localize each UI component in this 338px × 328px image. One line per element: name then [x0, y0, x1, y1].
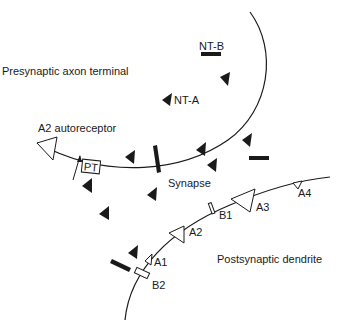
presynaptic-membrane — [37, 12, 266, 168]
b1-label: B1 — [219, 209, 232, 221]
b2-label: B2 — [152, 279, 165, 291]
nt-b-bar — [110, 259, 131, 272]
nt-a-triangle — [242, 133, 252, 147]
nt-a-triangle — [99, 206, 109, 220]
b2-receptor — [134, 267, 149, 278]
nt-a-triangle — [196, 142, 206, 156]
pt-label: PT — [83, 160, 99, 173]
a3-label: A3 — [256, 201, 269, 213]
synapse-label: Synapse — [168, 177, 211, 189]
nt-a-triangle — [82, 178, 92, 193]
a1-label: A1 — [154, 256, 167, 268]
a2-autoreceptor — [37, 137, 57, 160]
autoreceptor-label: A2 autoreceptor — [38, 122, 117, 134]
nt-a-label: NT-A — [174, 94, 200, 106]
nt-b-label: NT-B — [199, 40, 224, 52]
nt-b-legend-bar — [201, 52, 221, 56]
nt-b-bar — [249, 156, 269, 160]
a4-label: A4 — [298, 187, 311, 199]
nt-a-triangle — [147, 187, 157, 201]
nt-b-bar — [153, 145, 161, 173]
presynaptic-label: Presynaptic axon terminal — [2, 65, 129, 77]
synapse-diagram: Presynaptic axon terminal Postsynaptic d… — [0, 0, 338, 328]
nt-a-triangle — [220, 72, 230, 86]
postsynaptic-label: Postsynaptic dendrite — [217, 253, 322, 265]
a3-receptor — [231, 189, 255, 212]
a2-label: A2 — [189, 226, 202, 238]
diagram-svg: Presynaptic axon terminal Postsynaptic d… — [0, 0, 338, 328]
nt-a-triangle — [162, 93, 172, 106]
a1-receptor — [145, 254, 152, 265]
nt-a-triangle — [207, 158, 217, 172]
nt-a-triangle — [128, 245, 138, 259]
b1-receptor — [208, 203, 215, 214]
nt-a-triangle — [125, 150, 135, 164]
a2-receptor — [169, 226, 184, 243]
